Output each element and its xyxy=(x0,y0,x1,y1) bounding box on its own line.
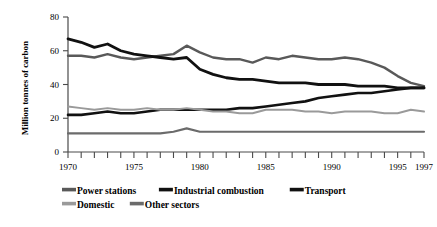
x-tick-label: 1995 xyxy=(389,162,408,172)
chart-canvas: Million tonnes of carbon 020406080 19701… xyxy=(0,0,437,227)
chart-legend: Power stationsIndustrial combustionTrans… xyxy=(62,186,347,210)
legend-swatch xyxy=(62,202,76,206)
x-tick-label: 1975 xyxy=(125,162,144,172)
y-tick-label: 0 xyxy=(55,147,60,157)
x-tick-label: 1985 xyxy=(257,162,276,172)
legend-swatch xyxy=(130,202,144,206)
carbon-emissions-line-chart: Million tonnes of carbon 020406080 19701… xyxy=(0,0,437,227)
y-axis-title-text: Million tonnes of carbon xyxy=(20,41,30,135)
legend-label: Domestic xyxy=(77,200,114,210)
y-tick-label: 20 xyxy=(50,113,60,123)
series-line-other-sectors xyxy=(68,128,424,133)
legend-swatch xyxy=(159,188,173,192)
legend-label: Power stations xyxy=(77,186,136,196)
y-axis-title: Million tonnes of carbon xyxy=(20,41,30,135)
legend-swatch xyxy=(62,188,76,192)
legend-label: Transport xyxy=(305,186,347,196)
data-series-group xyxy=(68,39,424,134)
y-axis-ticks: 020406080 xyxy=(50,12,68,157)
x-tick-label: 1980 xyxy=(191,162,210,172)
legend-swatch xyxy=(290,188,304,192)
x-tick-label: 1997 xyxy=(415,162,434,172)
x-axis-ticks: 1970197519801985199019951997 xyxy=(59,152,434,172)
y-tick-label: 60 xyxy=(50,46,60,56)
y-tick-label: 80 xyxy=(50,12,60,22)
legend-label: Other sectors xyxy=(145,200,200,210)
x-tick-label: 1990 xyxy=(323,162,342,172)
x-tick-label: 1970 xyxy=(59,162,78,172)
legend-label: Industrial combustion xyxy=(174,186,265,196)
y-tick-label: 40 xyxy=(50,80,60,90)
